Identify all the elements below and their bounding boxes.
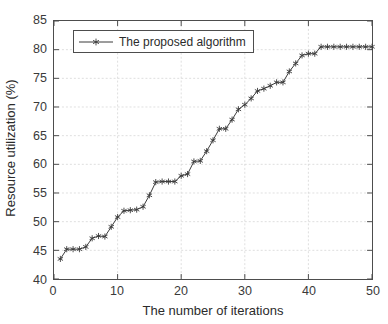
x-axis-title: The number of iterations	[53, 303, 373, 318]
y-tick-label: 75	[33, 72, 47, 85]
x-tick-label: 10	[110, 285, 124, 298]
x-axis-tick-labels: 01020304050	[53, 285, 373, 301]
x-tick-label: 50	[366, 285, 380, 298]
y-tick-label: 80	[33, 43, 47, 56]
y-tick-label: 55	[33, 187, 47, 200]
y-tick-label: 70	[33, 100, 47, 113]
figure: Resource utilization (%) 404550556065707…	[0, 0, 388, 324]
y-tick-label: 45	[33, 245, 47, 258]
x-tick-label: 30	[238, 285, 252, 298]
y-axis-tick-labels: 40455055606570758085	[0, 20, 47, 280]
x-tick-label: 20	[174, 285, 188, 298]
legend-marker-icon	[79, 36, 113, 48]
x-tick-label: 0	[50, 285, 57, 298]
plot-area	[53, 20, 373, 280]
y-tick-label: 40	[33, 274, 47, 287]
data-series-layer	[54, 21, 372, 279]
y-tick-label: 60	[33, 158, 47, 171]
legend-label: The proposed algorithm	[119, 35, 246, 49]
y-tick-label: 50	[33, 216, 47, 229]
x-tick-label: 40	[302, 285, 316, 298]
y-tick-label: 85	[33, 14, 47, 27]
chart-legend: The proposed algorithm	[73, 30, 254, 53]
y-tick-label: 65	[33, 129, 47, 142]
